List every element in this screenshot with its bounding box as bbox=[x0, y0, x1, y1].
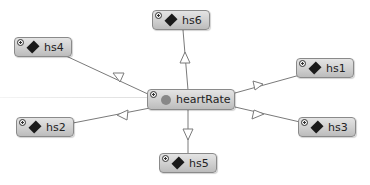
node-label: hs1 bbox=[326, 62, 346, 75]
plus-circle-icon[interactable] bbox=[162, 155, 169, 162]
edge-heartrate-hs3 bbox=[235, 107, 300, 122]
arrow-hollow-triangle-icon bbox=[183, 129, 193, 140]
node-label: hs4 bbox=[44, 41, 64, 54]
arrow-hollow-triangle-icon bbox=[253, 81, 263, 90]
arrow-hollow-triangle-icon bbox=[113, 73, 124, 82]
plus-circle-icon[interactable] bbox=[150, 91, 157, 98]
node-label: heartRate bbox=[176, 93, 231, 106]
edge-heartrate-hs1 bbox=[235, 75, 300, 93]
node-label: hs2 bbox=[46, 121, 66, 134]
arrow-hollow-triangle-icon bbox=[180, 52, 190, 63]
diamond-icon bbox=[310, 120, 323, 133]
node-hs2[interactable]: hs2 bbox=[16, 117, 74, 137]
node-label: hs3 bbox=[328, 121, 348, 134]
node-hs5[interactable]: hs5 bbox=[159, 153, 217, 173]
plus-circle-icon[interactable] bbox=[19, 119, 26, 126]
node-label: hs5 bbox=[189, 157, 209, 170]
diamond-icon bbox=[171, 156, 184, 169]
plus-circle-icon[interactable] bbox=[17, 39, 24, 46]
plus-circle-icon[interactable] bbox=[301, 119, 308, 126]
node-heartrate[interactable]: heartRate bbox=[147, 89, 235, 110]
diamond-icon bbox=[26, 40, 39, 53]
diamond-icon bbox=[164, 13, 177, 26]
diagram-canvas: heartRate hs6 hs4 hs1 hs2 hs3 hs5 bbox=[0, 0, 370, 185]
plus-circle-icon[interactable] bbox=[299, 60, 306, 67]
node-hs3[interactable]: hs3 bbox=[298, 117, 356, 137]
arrow-hollow-triangle-icon bbox=[252, 110, 264, 119]
diamond-icon bbox=[28, 120, 41, 133]
plus-circle-icon[interactable] bbox=[155, 12, 162, 19]
diamond-icon bbox=[308, 61, 321, 74]
circle-icon bbox=[161, 95, 171, 105]
arrow-hollow-triangle-icon bbox=[117, 110, 128, 120]
node-hs1[interactable]: hs1 bbox=[296, 58, 354, 78]
edge-heartrate-hs2 bbox=[73, 108, 150, 123]
node-hs4[interactable]: hs4 bbox=[14, 37, 72, 57]
edge-heartrate-hs4 bbox=[66, 56, 150, 95]
node-label: hs6 bbox=[182, 14, 202, 27]
node-hs6[interactable]: hs6 bbox=[152, 10, 210, 30]
